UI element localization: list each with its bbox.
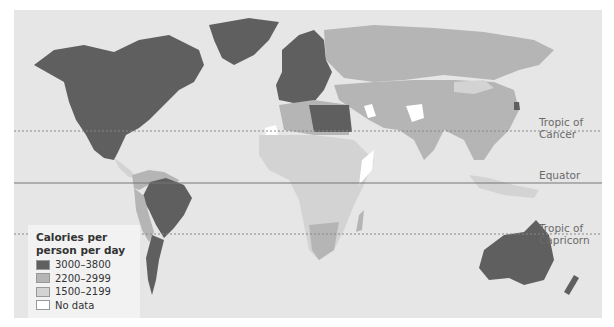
region-egypt-libya [309, 105, 352, 132]
tropic-of-capricorn-label-line1: Tropic of [539, 222, 590, 234]
legend-swatch-mid [36, 273, 50, 283]
legend-swatch-high [36, 260, 50, 270]
legend-item-no-data: No data [36, 299, 140, 313]
world-map: Tropic of Cancer Equator Tropic of Capri… [14, 10, 602, 318]
region-russia [324, 25, 554, 82]
legend-swatch-low [36, 287, 50, 297]
tropic-of-capricorn-label-line2: Capricorn [539, 234, 590, 246]
legend-item-low: 1500–2199 [36, 285, 140, 299]
legend-label-no-data: No data [55, 300, 94, 311]
region-indonesia [469, 175, 539, 198]
region-europe [276, 30, 332, 105]
legend-item-high: 3000–3800 [36, 258, 140, 272]
tropic-of-cancer-label-line1: Tropic of [539, 116, 583, 128]
region-north-america [34, 35, 204, 160]
legend-label-mid: 2200–2999 [55, 273, 111, 284]
legend-title-line1: Calories per [36, 231, 140, 244]
legend-title: Calories per person per day [36, 231, 140, 256]
region-madagascar [356, 210, 364, 232]
equator-label: Equator [539, 169, 580, 181]
region-argentina [146, 235, 164, 295]
legend-label-high: 3000–3800 [55, 259, 111, 270]
tropic-of-capricorn-label: Tropic of Capricorn [539, 222, 590, 246]
tropic-of-cancer-label-line2: Cancer [539, 128, 583, 140]
region-new-zealand [564, 275, 579, 295]
legend-label-low: 1500–2199 [55, 286, 111, 297]
region-greenland [209, 18, 279, 65]
region-south-korea [514, 102, 520, 110]
legend-title-line2: person per day [36, 244, 140, 257]
legend-swatch-no-data [36, 300, 50, 310]
legend-item-mid: 2200–2999 [36, 272, 140, 286]
tropic-of-cancer-label: Tropic of Cancer [539, 116, 583, 140]
legend: Calories per person per day 3000–3800 22… [28, 225, 140, 318]
